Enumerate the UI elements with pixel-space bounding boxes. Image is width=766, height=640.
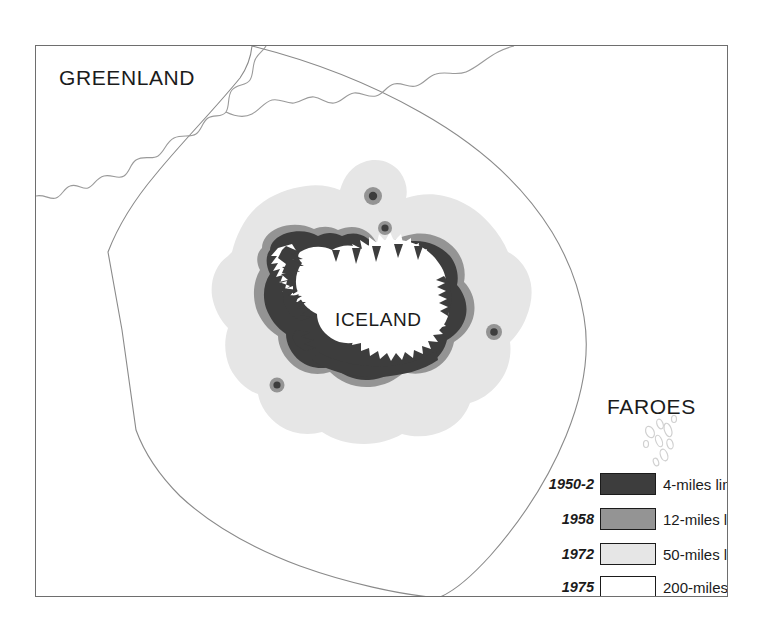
legend-label-0: 4-miles limit	[663, 476, 743, 493]
label-greenland: GREENLAND	[59, 66, 195, 89]
grimsey-island-marker-core	[369, 192, 377, 200]
legend-year-1: 1958	[562, 511, 595, 527]
fishery-limits-map: GREENLAND ICELAND FAROES 1950-2 4-miles …	[0, 0, 766, 640]
legend-swatch-4-miles	[601, 474, 656, 495]
kolbeinsey-island-marker-core	[381, 224, 388, 231]
legend-year-2: 1972	[562, 546, 594, 562]
legend-label-3: 200-miles limit	[663, 579, 760, 596]
legend-year-0: 1950-2	[549, 476, 594, 492]
legend-label-2: 50-miles limit	[663, 546, 751, 563]
map-canvas: GREENLAND ICELAND FAROES 1950-2 4-miles …	[0, 0, 766, 640]
southwest-point-marker-core	[273, 381, 280, 388]
legend-label-1: 12-miles limit	[663, 511, 751, 528]
legend-year-3: 1975	[562, 579, 595, 595]
legend-swatch-50-miles	[601, 544, 656, 565]
legend-swatch-200-miles	[601, 577, 656, 598]
legend-swatch-12-miles	[601, 509, 656, 530]
label-faroes: FAROES	[607, 395, 696, 418]
label-iceland: ICELAND	[335, 309, 422, 330]
east-point-marker-core	[490, 328, 498, 336]
